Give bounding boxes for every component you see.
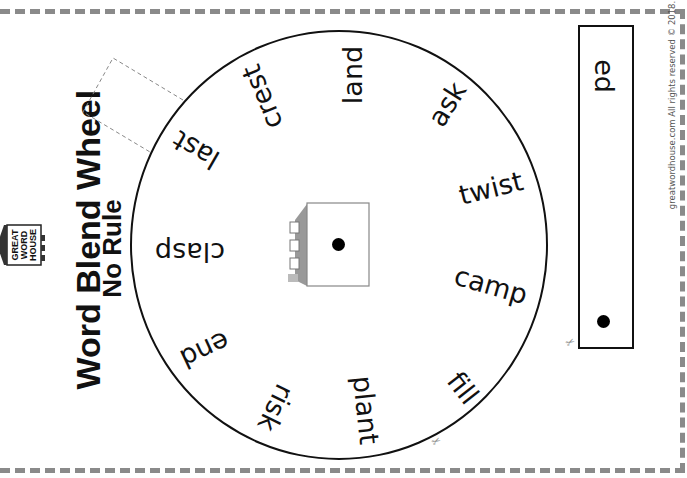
wheel-word-plant: plant [349, 374, 383, 445]
center-house-icon [283, 200, 373, 290]
wheel-word-clasp: clasp [155, 239, 225, 266]
wheel-pivot-dot[interactable] [332, 238, 345, 251]
wheel-word-land: land [339, 46, 366, 104]
copyright-text: greatwordhouse.com All rights reserved ©… [667, 0, 677, 215]
strip-pivot-dot[interactable] [597, 315, 610, 328]
strip-ending-ed: ed [591, 59, 618, 93]
